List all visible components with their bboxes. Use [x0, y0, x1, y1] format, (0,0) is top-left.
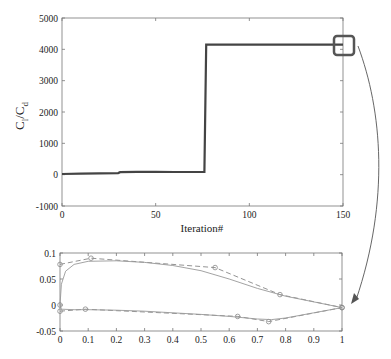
y-tick-label: 0.05	[39, 275, 56, 285]
top-y-axis: -1000010002000300040005000	[36, 14, 343, 212]
figure: -1000010002000300040005000 050100150 Ite…	[0, 0, 391, 359]
y-tick-label: -0.05	[36, 327, 56, 337]
x-tick-label: 0.5	[195, 335, 207, 345]
x-tick-label: 50	[151, 210, 161, 220]
x-tick-label: 0.8	[280, 335, 292, 345]
y-tick-label: 0	[53, 170, 58, 180]
x-tick-label: 0.7	[251, 335, 263, 345]
top-x-axis-label: Iteration#	[181, 222, 224, 234]
top-y-axis-label: Cl/Cd	[12, 102, 30, 130]
y-tick-label: 3000	[39, 76, 58, 86]
x-tick-label: 0.6	[223, 335, 235, 345]
x-tick-label: 0.1	[82, 335, 94, 345]
y-tick-label: 0.1	[44, 249, 56, 259]
x-tick-label: 0.3	[139, 335, 151, 345]
cl-cd-series-line	[62, 45, 343, 174]
x-tick-label: 100	[242, 210, 257, 220]
airfoil-series	[58, 256, 345, 324]
x-tick-label: 0.9	[308, 335, 320, 345]
airfoil-surface-line	[60, 261, 342, 308]
airfoil-chart: -0.0500.050.1 00.10.20.30.40.50.60.70.80…	[36, 249, 344, 346]
control-polygon-line	[60, 258, 342, 307]
y-tick-label: 2000	[39, 108, 58, 118]
x-tick-label: 0.2	[110, 335, 122, 345]
bottom-y-axis: -0.0500.050.1	[36, 249, 342, 337]
y-tick-label: 4000	[39, 45, 58, 55]
top-plot-area	[62, 18, 343, 206]
y-tick-label: -1000	[36, 202, 58, 212]
svg-text:Cl/Cd: Cl/Cd	[12, 102, 30, 130]
y-tick-label: 0	[51, 301, 56, 311]
connector-arrow-curve	[356, 46, 379, 300]
bottom-plot-area	[60, 253, 342, 331]
cl-cd-chart: -1000010002000300040005000 050100150 Ite…	[12, 14, 379, 305]
x-tick-label: 150	[336, 210, 351, 220]
y-tick-label: 5000	[39, 14, 58, 24]
x-tick-label: 0.4	[167, 335, 179, 345]
x-tick-label: 0	[60, 210, 65, 220]
airfoil-surface-line	[60, 305, 342, 320]
x-tick-label: 0	[58, 335, 63, 345]
y-tick-label: 1000	[39, 139, 58, 149]
x-tick-label: 1	[340, 335, 345, 345]
